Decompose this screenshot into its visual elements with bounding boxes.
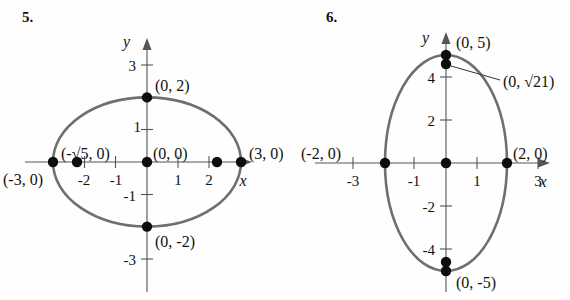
point-label-3-0: (3, 0): [249, 145, 284, 163]
point-0--5: [441, 266, 451, 276]
point-sqrt5-0: [212, 157, 222, 167]
y-tick-label-3: 3: [129, 58, 137, 74]
y-axis-arrowhead: [143, 38, 152, 50]
point-label-0-2: (0, 2): [155, 77, 190, 95]
point-label--2-0: (-2, 0): [301, 145, 341, 163]
y-tick-label--1: -1: [124, 188, 137, 204]
worksheet-page: 5. y x -2 -1 1 2 3 1: [0, 0, 570, 300]
point-label-2-0: (2, 0): [513, 145, 548, 163]
y-axis-label: y: [420, 29, 430, 47]
y-tick-label-2: 2: [428, 113, 436, 129]
point-2-0: [502, 158, 512, 168]
figure-5: 5. y x -2 -1 1 2 3 1: [0, 0, 285, 300]
point-label-0-0: (0, 0): [153, 145, 188, 163]
y-axis-arrowhead: [442, 32, 451, 44]
y-tick-label-1: 1: [134, 119, 142, 135]
point-0-0: [441, 158, 451, 168]
point-label-0--5: (0, -5): [456, 274, 496, 292]
y-tick-label-4: 4: [428, 70, 436, 86]
point--2-0: [380, 158, 390, 168]
x-tick-label-1: 1: [473, 173, 481, 189]
point-0--2: [142, 221, 152, 231]
point-0--sqrt21: [441, 257, 451, 267]
x-tick-label--1: -1: [110, 172, 123, 188]
x-tick-label-1: 1: [174, 172, 182, 188]
point-label-0--2: (0, -2): [155, 233, 195, 251]
figure-5-plot: y x -2 -1 1 2 3 1 -1 -3: [0, 0, 285, 300]
figure-6-number: 6.: [326, 10, 337, 25]
figure-5-number: 5.: [22, 10, 33, 25]
x-tick-label-3: 3: [534, 173, 542, 189]
y-axis-label: y: [121, 33, 131, 51]
point-label-0-sqrt21: (0, √21): [503, 73, 554, 91]
y-tick-label--3: -3: [124, 252, 137, 268]
point-3-0: [236, 157, 246, 167]
figure-6: 6. y x -3 -1 1 3 4 2: [285, 0, 570, 300]
point-0-2: [142, 92, 152, 102]
point-label--sqrt5-0: (-√5, 0): [61, 145, 110, 163]
y-tick-label--4: -4: [423, 242, 436, 258]
x-tick-label--3: -3: [347, 173, 360, 189]
point--3-0: [48, 157, 58, 167]
x-tick-label--1: -1: [408, 173, 421, 189]
point-0-sqrt21: [441, 59, 451, 69]
point-label-0-5: (0, 5): [456, 34, 491, 52]
point-0-0: [142, 157, 152, 167]
x-tick-label-2: 2: [205, 172, 213, 188]
figure-6-plot: y x -3 -1 1 3 4 2 -2 -4: [285, 0, 570, 300]
point-0-5: [441, 50, 451, 60]
point-label--3-0: (-3, 0): [3, 171, 43, 189]
y-tick-label--2: -2: [423, 199, 436, 215]
x-tick-label--2: -2: [78, 172, 91, 188]
